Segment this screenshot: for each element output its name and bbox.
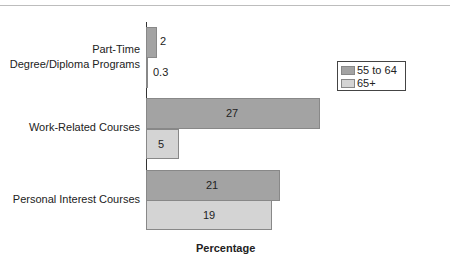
value-label: 5 <box>158 138 164 150</box>
category-label-line: Degree/Diploma Programs <box>10 57 140 72</box>
value-label: 19 <box>203 209 215 221</box>
legend: 55 to 64 65+ <box>337 61 406 91</box>
bar-part-time-55-64 <box>146 27 157 58</box>
category-label-part-time: Part-Time Degree/Diploma Programs <box>10 42 140 72</box>
value-label: 2 <box>160 35 166 47</box>
legend-swatch-icon <box>341 79 355 88</box>
category-label-work-related: Work-Related Courses <box>29 120 140 135</box>
bar-part-time-65plus <box>146 58 148 88</box>
top-rule <box>0 5 450 6</box>
category-label-line: Part-Time <box>10 42 140 57</box>
legend-item-55-64: 55 to 64 <box>341 64 397 76</box>
value-label: 21 <box>206 179 218 191</box>
x-axis-label: Percentage <box>196 242 255 254</box>
legend-label: 55 to 64 <box>357 64 397 76</box>
value-label: 0.3 <box>153 66 168 78</box>
category-label-personal-interest: Personal Interest Courses <box>13 192 140 207</box>
legend-swatch-icon <box>341 66 355 75</box>
legend-item-65plus: 65+ <box>341 77 376 89</box>
value-label: 27 <box>226 107 238 119</box>
legend-label: 65+ <box>357 77 376 89</box>
